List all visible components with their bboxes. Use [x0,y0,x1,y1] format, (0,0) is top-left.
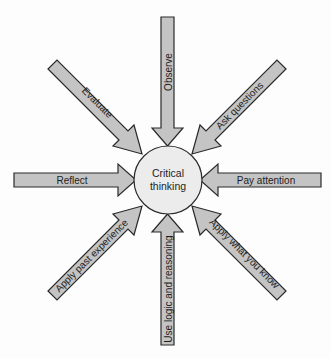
arrow-use-logic-and-reasoning: Use logic and reasoning [152,214,183,345]
center-hub: Critical thinking [134,146,202,214]
arrow-label-apply-what-you-know: Apply what you know [207,216,282,291]
arrow-label-apply-past-experience: Apply past experience [53,217,131,295]
center-label-line1: Critical [152,167,184,179]
arrow-apply-past-experience: Apply past experience [48,206,142,300]
arrow-observe: Observe [152,17,183,146]
arrow-reflect: Reflect [14,164,136,196]
center-label-line2: thinking [150,180,186,192]
arrow-apply-what-you-know: Apply what you know [192,206,286,300]
arrow-evaluate-shape: Evaluate [48,60,142,154]
arrow-label-observe: Observe [163,53,174,91]
arrow-label-reflect: Reflect [56,175,87,186]
critical-thinking-diagram: Observe Use logic and reasoning Reflect … [0,0,331,359]
arrow-label-use-logic-and-reasoning: Use logic and reasoning [163,235,174,342]
arrow-label-pay-attention: Pay attention [237,175,295,186]
arrow-label-ask-questions: Ask questions [214,80,266,132]
arrow-ask-questions: Ask questions [192,60,286,154]
arrow-pay-attention: Pay attention [200,164,321,196]
